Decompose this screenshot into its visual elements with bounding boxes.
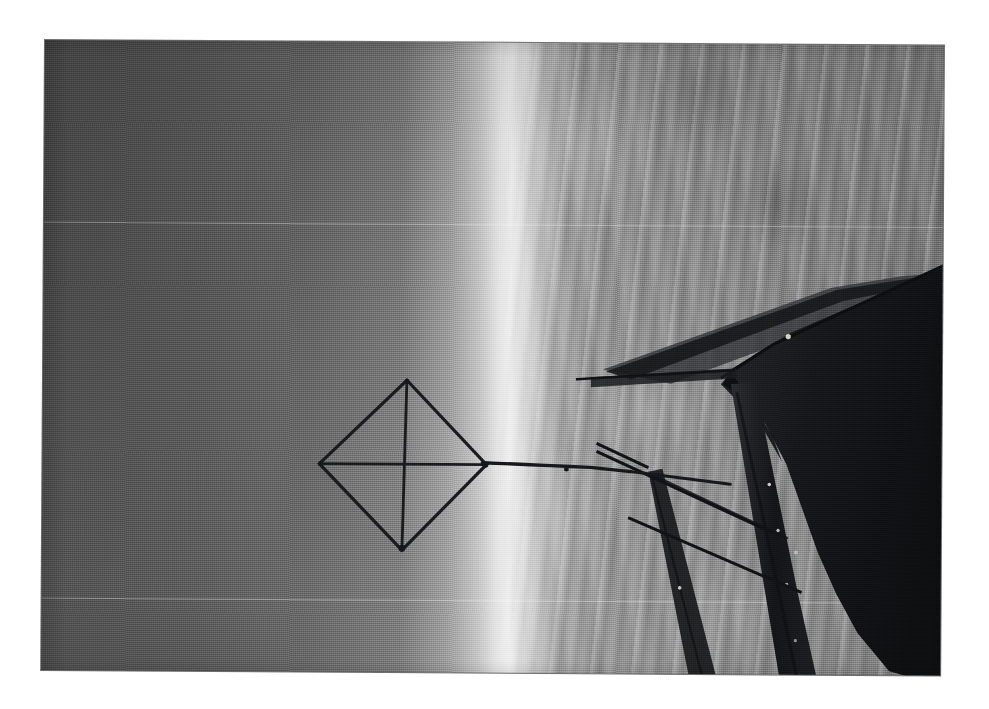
page-title: Kite flown from an aircraft wing strut, … bbox=[0, 21, 1, 22]
film-grain bbox=[41, 40, 944, 675]
photograph-frame bbox=[41, 40, 944, 675]
photograph-image bbox=[41, 40, 944, 675]
page-root: Kite flown from an aircraft wing strut, … bbox=[0, 0, 989, 709]
